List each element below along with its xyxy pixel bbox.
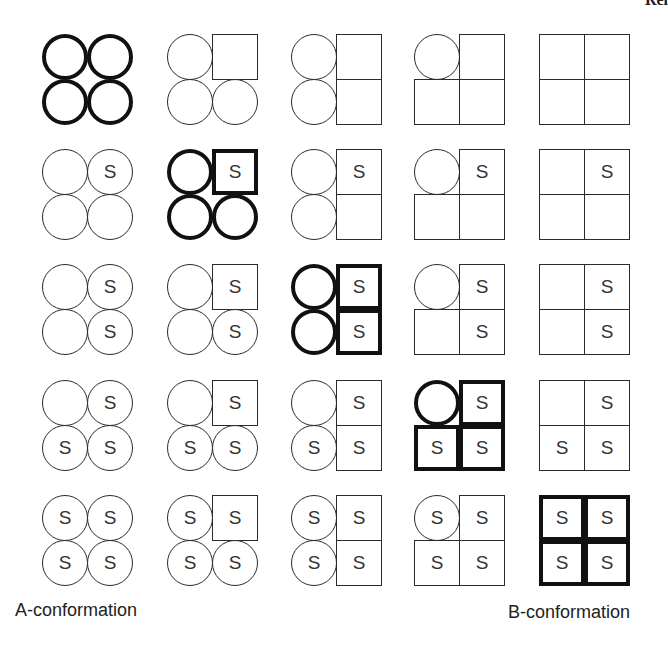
square-subunit-br: S	[336, 425, 382, 471]
substrate-label: S	[104, 276, 117, 298]
top-right-fragment-text: Rel	[645, 0, 668, 9]
circle-subunit-br: S	[212, 540, 258, 586]
square-subunit-br	[459, 79, 505, 125]
state-cell-r5-c2: SSSS	[167, 495, 259, 587]
substrate-label: S	[353, 437, 366, 459]
square-subunit-br	[459, 194, 505, 240]
substrate-label: S	[353, 321, 366, 343]
substrate-label: S	[229, 507, 242, 529]
square-subunit-br: S	[459, 309, 505, 355]
substrate-label: S	[353, 507, 366, 529]
circle-subunit-br: S	[212, 309, 258, 355]
square-subunit-tr: S	[459, 380, 505, 426]
circle-subunit-bl: S	[42, 425, 88, 471]
circle-subunit-tl	[167, 149, 213, 195]
substrate-label: S	[59, 552, 72, 574]
square-subunit-br	[336, 79, 382, 125]
state-cell-r5-c5: SSSS	[539, 495, 631, 587]
circle-subunit-tr	[87, 34, 133, 80]
square-subunit-tr: S	[212, 264, 258, 310]
substrate-label: S	[353, 276, 366, 298]
substrate-label: S	[229, 392, 242, 414]
square-subunit-tr: S	[336, 495, 382, 541]
square-subunit-bl	[414, 194, 460, 240]
substrate-label: S	[229, 552, 242, 574]
substrate-label: S	[601, 276, 614, 298]
circle-subunit-tl: S	[167, 495, 213, 541]
state-cell-r5-c3: SSSS	[291, 495, 383, 587]
square-subunit-br: S	[459, 540, 505, 586]
square-subunit-br: S	[584, 540, 630, 586]
state-cell-r3-c3: SS	[291, 264, 383, 356]
square-subunit-bl: S	[539, 425, 585, 471]
circle-subunit-bl	[42, 194, 88, 240]
square-subunit-br	[584, 79, 630, 125]
substrate-label: S	[601, 507, 614, 529]
state-cell-r4-c2: SSS	[167, 380, 259, 472]
circle-subunit-br	[212, 194, 258, 240]
substrate-label: S	[104, 552, 117, 574]
state-cell-r4-c5: SSS	[539, 380, 631, 472]
circle-subunit-bl	[167, 309, 213, 355]
state-cell-r2-c4: S	[414, 149, 506, 241]
state-cell-r5-c1: SSSS	[42, 495, 134, 587]
circle-subunit-bl: S	[291, 540, 337, 586]
state-cell-r4-c1: SSS	[42, 380, 134, 472]
substrate-label: S	[59, 507, 72, 529]
circle-subunit-br: S	[87, 309, 133, 355]
substrate-label: S	[308, 437, 321, 459]
substrate-label: S	[353, 552, 366, 574]
substrate-label: S	[601, 437, 614, 459]
square-subunit-tr: S	[459, 264, 505, 310]
square-subunit-tr: S	[584, 264, 630, 310]
square-subunit-tr	[459, 34, 505, 80]
square-subunit-bl: S	[414, 425, 460, 471]
circle-subunit-tr: S	[87, 149, 133, 195]
substrate-label: S	[308, 507, 321, 529]
square-subunit-tr: S	[212, 380, 258, 426]
square-subunit-tr: S	[336, 380, 382, 426]
square-subunit-br	[584, 194, 630, 240]
square-subunit-bl	[414, 79, 460, 125]
state-cell-r1-c1	[42, 34, 134, 126]
substrate-label: S	[476, 276, 489, 298]
circle-subunit-tl: S	[414, 495, 460, 541]
square-subunit-bl	[539, 194, 585, 240]
square-subunit-tr: S	[584, 380, 630, 426]
circle-subunit-tl	[167, 264, 213, 310]
square-subunit-br: S	[584, 309, 630, 355]
b-conformation-label: B-conformation	[508, 602, 630, 623]
circle-subunit-bl	[167, 194, 213, 240]
square-subunit-bl	[414, 309, 460, 355]
circle-subunit-tl	[291, 34, 337, 80]
square-subunit-tl	[539, 380, 585, 426]
substrate-label: S	[476, 552, 489, 574]
square-subunit-bl: S	[539, 540, 585, 586]
circle-subunit-tr: S	[87, 495, 133, 541]
circle-subunit-br	[87, 79, 133, 125]
state-cell-r1-c4	[414, 34, 506, 126]
square-subunit-tl	[539, 149, 585, 195]
substrate-label: S	[601, 552, 614, 574]
substrate-label: S	[229, 276, 242, 298]
substrate-label: S	[184, 507, 197, 529]
circle-subunit-tl	[42, 264, 88, 310]
square-subunit-tr: S	[212, 495, 258, 541]
substrate-label: S	[476, 161, 489, 183]
substrate-label: S	[476, 507, 489, 529]
state-cell-r3-c2: SS	[167, 264, 259, 356]
square-subunit-br: S	[336, 309, 382, 355]
a-conformation-label: A-conformation	[15, 600, 137, 621]
state-cell-r3-c5: SS	[539, 264, 631, 356]
circle-subunit-tl	[414, 149, 460, 195]
circle-subunit-bl	[42, 309, 88, 355]
circle-subunit-tl	[42, 149, 88, 195]
state-cell-r3-c1: SS	[42, 264, 134, 356]
state-cell-r4-c4: SSS	[414, 380, 506, 472]
circle-subunit-tl	[291, 380, 337, 426]
state-cell-r2-c3: S	[291, 149, 383, 241]
circle-subunit-tl: S	[291, 495, 337, 541]
circle-subunit-br: S	[87, 540, 133, 586]
circle-subunit-tl	[291, 264, 337, 310]
circle-subunit-br	[87, 194, 133, 240]
